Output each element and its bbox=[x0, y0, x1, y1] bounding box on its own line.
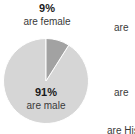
edge-text-fragment-1: are bbox=[114, 22, 135, 33]
callout-female: 9% are female bbox=[0, 2, 94, 27]
callout-male: 91% are male bbox=[6, 86, 86, 111]
callout-male-percent: 91% bbox=[6, 86, 86, 99]
pie-chart-infographic: 9% are female 91% are male are are are H… bbox=[0, 0, 135, 134]
edge-text-fragment-3: are His bbox=[107, 125, 135, 134]
callout-female-caption: are female bbox=[0, 16, 94, 28]
callout-female-percent: 9% bbox=[0, 2, 94, 15]
callout-male-caption: are male bbox=[6, 100, 86, 112]
edge-text-fragment-2: are bbox=[114, 87, 135, 98]
